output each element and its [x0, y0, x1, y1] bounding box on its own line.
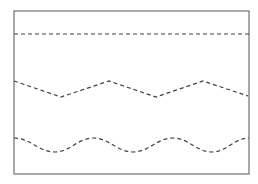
line-styles-diagram	[0, 0, 258, 184]
zigzag-dashed-line	[14, 81, 248, 97]
wavy-dashed-line	[14, 138, 249, 152]
